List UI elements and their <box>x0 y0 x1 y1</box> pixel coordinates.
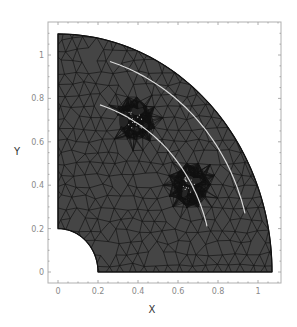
y-axis-label: Y <box>13 146 21 157</box>
x-tick-label: 0.4 <box>132 287 145 296</box>
y-tick-label: 0.8 <box>31 94 44 103</box>
x-tick-label: 0.6 <box>172 287 185 296</box>
x-axis-label: X <box>149 304 156 315</box>
x-tick-label: 0.8 <box>212 287 225 296</box>
y-tick-label: 0.6 <box>31 138 44 147</box>
x-tick-label: 0 <box>55 287 60 296</box>
mesh-domain <box>58 34 272 272</box>
y-tick-label: 0.2 <box>31 225 44 234</box>
y-tick-label: 1 <box>39 51 44 60</box>
mesh-plot: 00.20.40.60.81 00.20.40.60.81 X Y <box>0 0 297 327</box>
x-axis-tick-labels: 00.20.40.60.81 <box>55 287 260 296</box>
x-tick-label: 1 <box>255 287 260 296</box>
y-tick-label: 0 <box>39 268 44 277</box>
x-tick-label: 0.2 <box>92 287 105 296</box>
y-axis-tick-labels: 00.20.40.60.81 <box>31 51 44 277</box>
y-tick-label: 0.4 <box>31 181 44 190</box>
